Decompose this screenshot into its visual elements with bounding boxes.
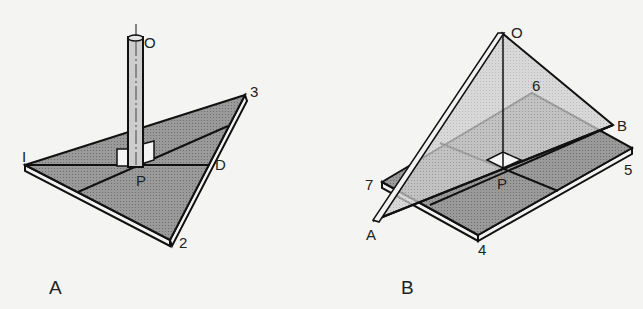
label-6: 6: [532, 77, 540, 94]
label-7: 7: [365, 176, 373, 193]
label-b: B: [617, 117, 627, 134]
figure-b: O 6 B 5 P 7 A 4 B: [365, 24, 632, 298]
figure-a: O I 3 D P 2 A: [22, 24, 258, 298]
label-2: 2: [179, 234, 187, 251]
caption-b: B: [401, 277, 414, 298]
perspective-diagrams: O I 3 D P 2 A O 6 B 5 P 7 A 4 B: [0, 0, 643, 309]
label-p: P: [497, 175, 507, 192]
label-d: D: [215, 156, 226, 173]
diagram-canvas: O I 3 D P 2 A O 6 B 5 P 7 A 4 B: [0, 0, 643, 309]
label-p: P: [136, 172, 146, 189]
label-o: O: [144, 34, 156, 51]
label-1: I: [22, 148, 26, 165]
label-5: 5: [624, 161, 632, 178]
label-3: 3: [250, 83, 258, 100]
label-o: O: [511, 24, 523, 41]
caption-a: A: [49, 277, 62, 298]
label-a: A: [366, 226, 376, 243]
label-4: 4: [478, 241, 486, 258]
